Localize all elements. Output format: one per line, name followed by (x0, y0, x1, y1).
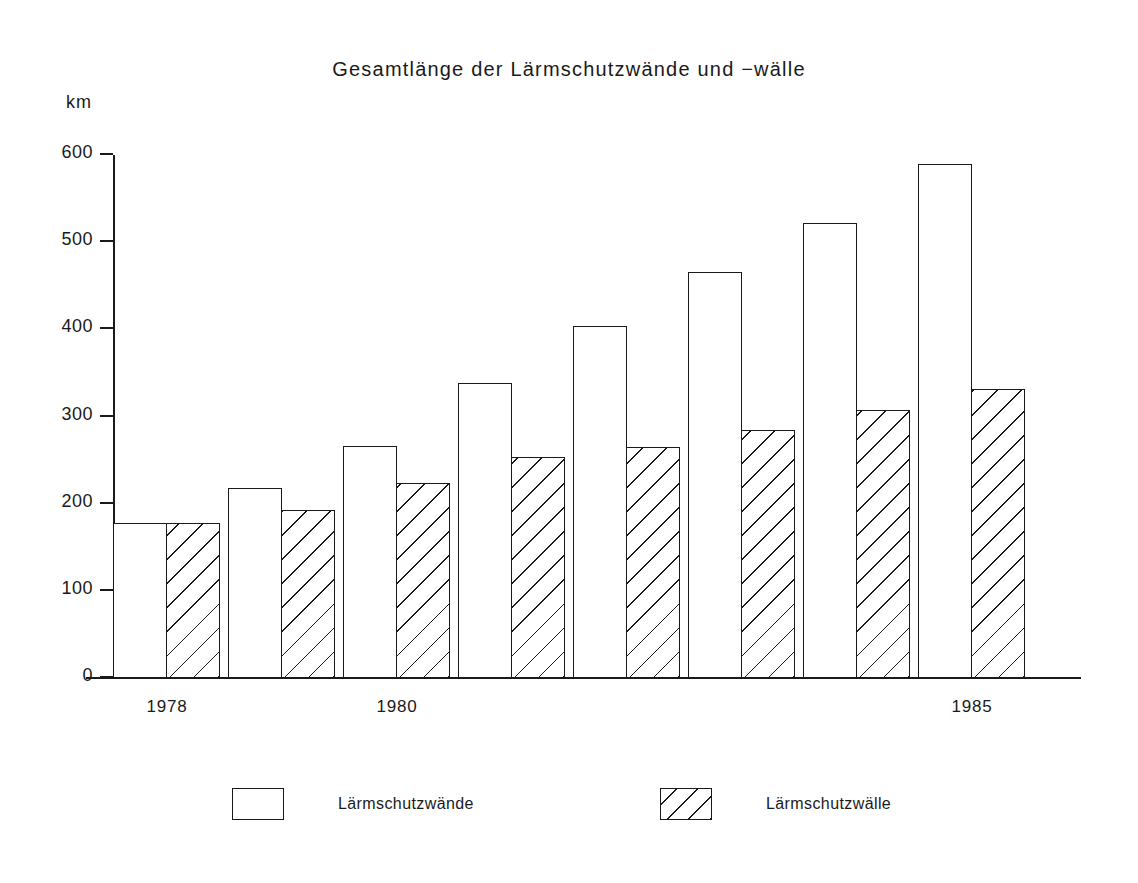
y-axis-tick: 0 (100, 676, 113, 678)
bar-laermschutzwaelle-1982 (626, 447, 680, 678)
y-axis-tick-label: 0 (82, 665, 93, 686)
bar-laermschutzwaende-1978 (113, 523, 167, 678)
y-axis-tick-label: 500 (61, 229, 93, 250)
y-axis-tick: 100 (100, 589, 113, 591)
x-axis-label-1985: 1985 (951, 697, 992, 717)
bar-laermschutzwaelle-1979 (281, 510, 335, 678)
chart-title: Gesamtlänge der Lärmschutzwände und −wäl… (0, 58, 1138, 81)
bar-laermschutzwaende-1980 (343, 446, 397, 678)
bar-laermschutzwaelle-1985 (971, 389, 1025, 678)
bar-laermschutzwaelle-1984 (856, 410, 910, 678)
chart-legend: Lärmschutzwände Lärmschutzwälle (0, 788, 1138, 828)
bar-laermschutzwaelle-1983 (741, 430, 795, 678)
x-axis-label-1978: 1978 (146, 697, 187, 717)
legend-label-laermschutzwaelle: Lärmschutzwälle (766, 795, 891, 813)
bar-laermschutzwaende-1982 (573, 326, 627, 678)
bar-laermschutzwaelle-1978 (166, 523, 220, 678)
bar-laermschutzwaende-1985 (918, 164, 972, 678)
bar-laermschutzwaelle-1981 (511, 457, 565, 678)
legend-swatch-hatched-icon (660, 788, 712, 820)
y-axis-tick: 200 (100, 502, 113, 504)
y-axis-unit-label: km (66, 92, 92, 113)
legend-swatch-outline-icon (232, 788, 284, 820)
bar-laermschutzwaende-1983 (688, 272, 742, 678)
legend-item-laermschutzwaende[interactable]: Lärmschutzwände (232, 788, 474, 820)
legend-label-laermschutzwaende: Lärmschutzwände (338, 795, 474, 813)
chart-page: Gesamtlänge der Lärmschutzwände und −wäl… (0, 0, 1138, 883)
y-axis-tick-label: 200 (61, 491, 93, 512)
bar-laermschutzwaende-1984 (803, 223, 857, 678)
y-axis-tick: 500 (100, 240, 113, 242)
y-axis-tick-label: 100 (61, 578, 93, 599)
y-axis-tick-label: 400 (61, 316, 93, 337)
y-axis-tick: 400 (100, 327, 113, 329)
bar-laermschutzwaelle-1980 (396, 483, 450, 678)
plot-area: 0100200300400500600 (113, 155, 1073, 678)
y-axis-tick-label: 600 (61, 142, 93, 163)
y-axis-tick: 600 (100, 153, 113, 155)
bar-laermschutzwaende-1981 (458, 383, 512, 678)
x-axis-label-1980: 1980 (376, 697, 417, 717)
bar-laermschutzwaende-1979 (228, 488, 282, 678)
y-axis-tick: 300 (100, 415, 113, 417)
legend-item-laermschutzwaelle[interactable]: Lärmschutzwälle (660, 788, 891, 820)
y-axis-tick-label: 300 (61, 404, 93, 425)
